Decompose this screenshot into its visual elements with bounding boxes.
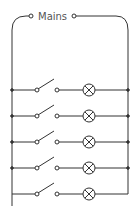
junction-dot (11, 89, 14, 92)
switch-terminal (55, 192, 59, 196)
switch-lever-open (38, 131, 54, 141)
switch-terminal (55, 114, 59, 118)
mains-terminal-left (29, 14, 33, 18)
switch-terminal (55, 166, 59, 170)
switch-lever-open (38, 183, 54, 193)
switch-terminal (55, 88, 59, 92)
junction-dot (11, 115, 14, 118)
switch-lever-open (38, 105, 54, 115)
switch-lever-open (38, 79, 54, 89)
junction-dot (11, 167, 14, 170)
switch-lever-open (38, 157, 54, 167)
switch-terminal (55, 140, 59, 144)
mains-terminal-right (72, 14, 76, 18)
circuit-diagram: Mains (0, 0, 136, 209)
mains-label: Mains (38, 11, 67, 22)
mains-wire-left (12, 16, 29, 206)
junction-dot (11, 141, 14, 144)
